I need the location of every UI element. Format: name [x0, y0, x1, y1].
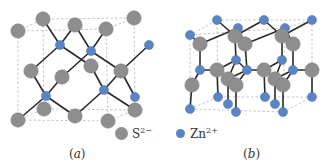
zinc-atom [41, 91, 50, 100]
legend: S2− Zn2+ [115, 126, 218, 141]
legend-zinc-label: Zn2+ [190, 126, 218, 141]
zinc-atom [212, 15, 221, 24]
zinc-atom [213, 92, 222, 101]
zinc-atom [185, 30, 194, 39]
sulfur-atom [127, 11, 141, 25]
zinc-atom [278, 107, 287, 116]
zinc-atom [259, 15, 268, 24]
sulfur-atom [286, 37, 300, 51]
sulfur-atom [36, 12, 50, 26]
zinc-blende-structure [11, 11, 154, 128]
sulfur-atom [55, 70, 69, 84]
sulfur-atom [193, 37, 207, 51]
sulfur-atom [37, 102, 51, 116]
legend-sulfur-label: S2− [132, 126, 152, 141]
caption-b: (b) [243, 147, 260, 161]
sulfur-atom [185, 78, 199, 92]
zinc-atom [86, 46, 95, 55]
sulfur-atom [24, 64, 38, 78]
sulfur-atom [114, 64, 128, 78]
sulfur-atom [238, 37, 252, 51]
zinc-atom [231, 107, 240, 116]
zinc-atom [130, 92, 139, 101]
zinc-atom [223, 99, 232, 108]
sulfur-atom [128, 103, 142, 117]
zinc-atom [231, 55, 240, 64]
sulfur-ion-icon [115, 127, 128, 140]
sulfur-atom [276, 78, 290, 92]
atoms [185, 15, 319, 116]
zinc-atom [242, 65, 251, 74]
zinc-atom [260, 92, 269, 101]
sulfur-atom [68, 18, 82, 32]
sulfur-atom [229, 78, 243, 92]
sulfur-atom [305, 63, 319, 77]
caption-a: (a) [69, 147, 86, 161]
zinc-ion-icon [176, 129, 185, 138]
zinc-atom [195, 65, 204, 74]
zinc-atom [270, 99, 279, 108]
sulfur-atom [101, 114, 115, 128]
zinc-atom [99, 85, 108, 94]
zinc-atom [288, 65, 297, 74]
sulfur-atom [11, 24, 25, 38]
zinc-atom [307, 15, 316, 24]
zinc-atom [307, 92, 316, 101]
sulfur-atom [84, 59, 98, 73]
sulfur-atom [11, 113, 25, 127]
zinc-atom [185, 104, 194, 113]
sulfur-atom [99, 22, 113, 36]
zinc-atom [277, 55, 286, 64]
wurtzite-structure [185, 15, 319, 116]
zinc-atom [55, 40, 64, 49]
crystal-structures-diagram [0, 0, 330, 167]
sulfur-atom [68, 109, 82, 123]
zinc-atom [144, 40, 153, 49]
